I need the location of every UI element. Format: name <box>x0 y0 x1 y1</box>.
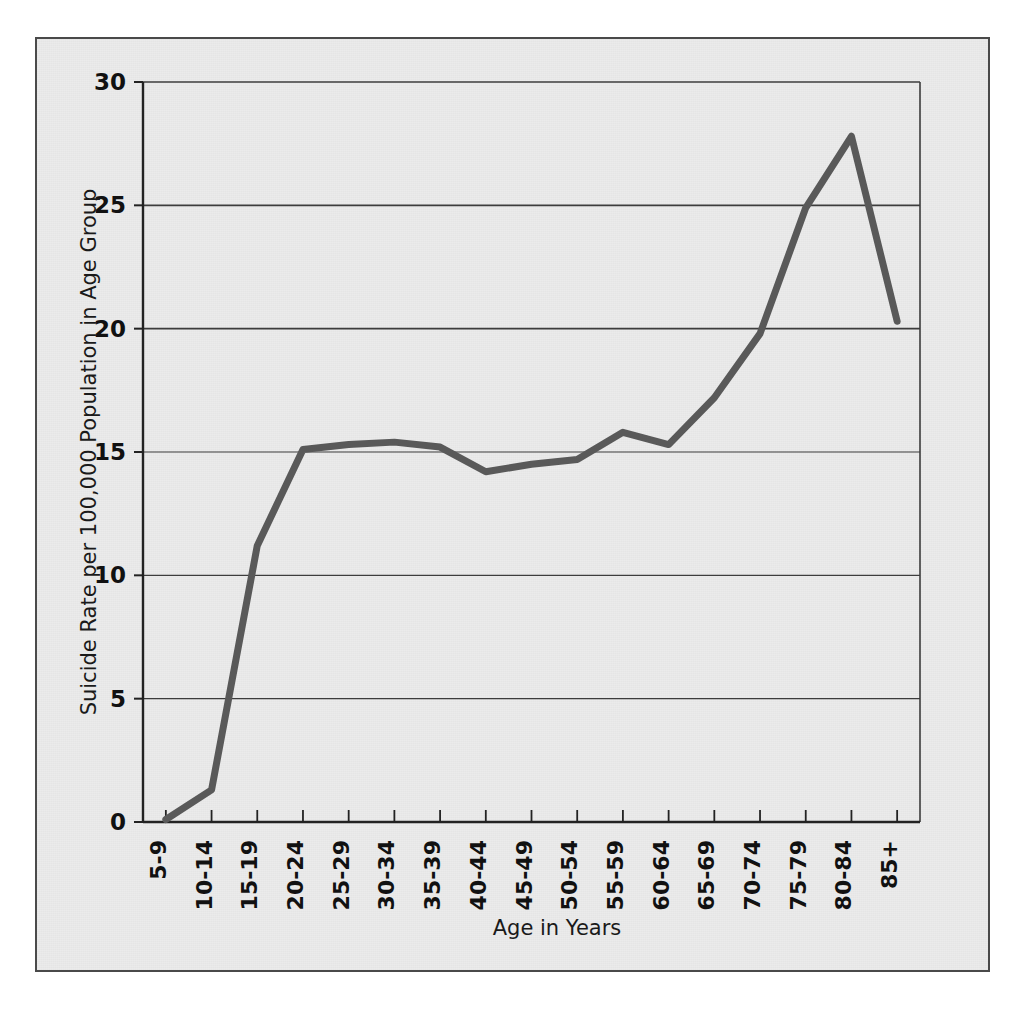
x-tick-label: 50-54 <box>557 840 582 910</box>
x-tick-label: 45-49 <box>512 840 537 910</box>
x-axis-ticks <box>166 810 897 822</box>
y-tick-label: 30 <box>94 69 126 95</box>
x-tick-label: 75-79 <box>786 840 811 910</box>
gridlines <box>143 205 920 698</box>
y-tick-label: 5 <box>110 686 126 712</box>
y-axis-title: Suicide Rate per 100,000 Population in A… <box>77 189 101 716</box>
x-tick-label: 55-59 <box>603 840 628 910</box>
x-tick-label: 35-39 <box>420 840 445 910</box>
series-line-suicide-rate <box>166 136 897 819</box>
x-tick-label: 30-34 <box>374 840 399 910</box>
figure-page: 051015202530 5-910-1415-1920-2425-2930-3… <box>0 0 1024 1012</box>
x-tick-label: 10-14 <box>192 840 217 910</box>
data-series-group <box>166 136 897 819</box>
y-tick-label: 0 <box>110 809 126 835</box>
line-chart: 051015202530 5-910-1415-1920-2425-2930-3… <box>0 0 1024 1012</box>
x-tick-label: 15-19 <box>237 840 262 910</box>
x-tick-label: 20-24 <box>283 840 308 910</box>
x-tick-label: 80-84 <box>831 840 856 910</box>
x-tick-label: 25-29 <box>329 840 354 910</box>
x-tick-label: 5-9 <box>146 840 171 880</box>
x-axis-title: Age in Years <box>493 916 622 940</box>
y-axis-ticks: 051015202530 <box>94 69 143 835</box>
x-tick-label: 65-69 <box>694 840 719 910</box>
x-tick-label: 85+ <box>877 840 902 889</box>
x-tick-label: 70-74 <box>740 840 765 910</box>
x-tick-label: 40-44 <box>466 840 491 910</box>
x-tick-label: 60-64 <box>649 840 674 910</box>
x-axis-tick-labels: 5-910-1415-1920-2425-2930-3435-3940-4445… <box>146 840 902 910</box>
